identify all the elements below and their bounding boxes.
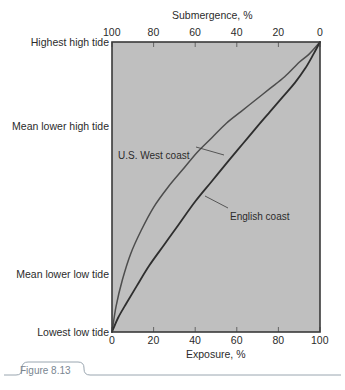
bottom-tick-label: 20 (148, 334, 160, 346)
plot-area-background (112, 42, 320, 332)
figure-container: Submergence, % 100806040200 020406080100… (0, 0, 345, 390)
bottom-tick-label: 80 (272, 334, 284, 346)
series-annotation-label: U.S. West coast (118, 150, 190, 161)
y-axis-label: Mean lower high tide (12, 120, 109, 132)
top-tick-label: 0 (317, 26, 323, 38)
bottom-tick-label: 40 (189, 334, 201, 346)
bottom-axis-title: Exposure, % (186, 348, 246, 360)
top-axis-title: Submergence, % (172, 9, 253, 21)
top-tick-label: 60 (189, 26, 201, 38)
y-axis-label: Lowest low tide (37, 326, 109, 338)
top-tick-label: 20 (272, 26, 284, 38)
y-axis-label: Mean lower low tide (16, 268, 109, 280)
bottom-tick-label: 60 (231, 334, 243, 346)
top-tick-label: 40 (231, 26, 243, 38)
y-axis-label: Highest high tide (31, 36, 109, 48)
bottom-tick-label: 0 (109, 334, 115, 346)
bottom-tick-label: 100 (311, 334, 329, 346)
series-annotation-label: English coast (230, 211, 289, 222)
top-tick-label: 80 (148, 26, 160, 38)
figure-caption: Figure 8.13 (20, 365, 71, 376)
